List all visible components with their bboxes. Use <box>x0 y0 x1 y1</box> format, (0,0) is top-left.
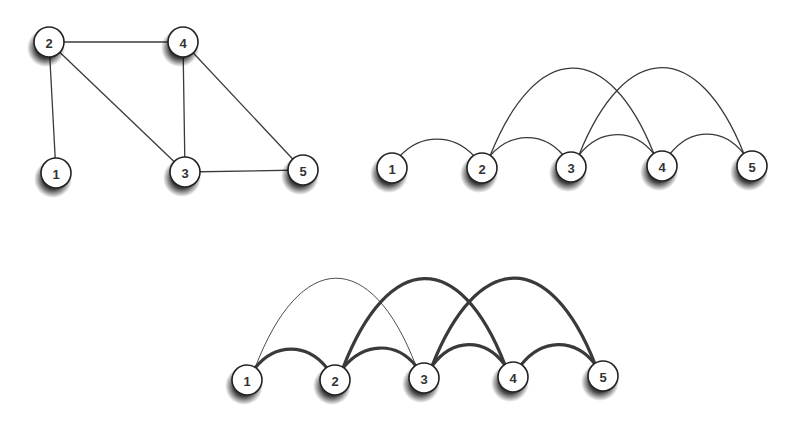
edge-4-5 <box>670 134 744 154</box>
node-label: 4 <box>179 36 187 51</box>
node-5: 5 <box>730 151 768 191</box>
edge-3-4 <box>579 135 654 155</box>
node-label: 5 <box>599 370 606 385</box>
node-5: 5 <box>581 361 619 401</box>
node-1: 1 <box>225 365 263 405</box>
node-label: 1 <box>388 162 395 177</box>
edge-layer <box>255 278 595 368</box>
edge-2-3 <box>490 138 563 156</box>
node-label: 1 <box>52 167 59 182</box>
node-label: 1 <box>243 374 250 389</box>
node-2: 2 <box>27 27 65 67</box>
node-label: 3 <box>567 161 574 176</box>
node-5: 5 <box>281 155 319 195</box>
node-1: 1 <box>370 153 408 193</box>
node-4: 4 <box>491 362 529 402</box>
node-3: 3 <box>549 152 587 192</box>
node-4: 4 <box>161 27 199 67</box>
node-4: 4 <box>640 151 678 191</box>
node-label: 3 <box>420 372 427 387</box>
edge-layer <box>400 68 744 156</box>
edge-4-5 <box>521 345 595 365</box>
node-3: 3 <box>163 157 201 197</box>
edge-3-4 <box>432 345 505 366</box>
node-label: 4 <box>509 371 517 386</box>
node-label: 4 <box>658 160 666 175</box>
edge-2-4 <box>490 68 654 156</box>
original-graph: 12345 <box>27 27 319 198</box>
node-label: 2 <box>331 374 338 389</box>
edge-1-2 <box>400 139 474 156</box>
linear-arc-graph: 12345 <box>370 68 768 193</box>
weighted-arc-graph: 12345 <box>225 278 619 405</box>
node-label: 5 <box>299 164 306 179</box>
node-label: 2 <box>45 36 52 51</box>
edge-2-3 <box>343 348 416 368</box>
edge-2-3 <box>49 42 185 172</box>
node-2: 2 <box>313 365 351 405</box>
node-label: 5 <box>748 160 755 175</box>
node-1: 1 <box>34 158 72 198</box>
node-3: 3 <box>402 363 440 403</box>
node-label: 3 <box>181 166 188 181</box>
node-label: 2 <box>478 162 485 177</box>
edge-1-2 <box>255 349 327 368</box>
edge-4-5 <box>183 42 303 170</box>
node-2: 2 <box>460 153 498 193</box>
diagram-canvas: 12345 12345 12345 <box>0 0 800 430</box>
edge-3-5 <box>579 68 744 155</box>
